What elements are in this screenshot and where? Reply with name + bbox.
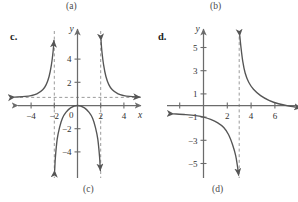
x-tick-label-d-2: 4 bbox=[249, 111, 254, 121]
y-tick-label-d-1: −3 bbox=[188, 136, 198, 146]
y-tick-label-d-3: 1 bbox=[193, 89, 198, 99]
figure-container: (a) (b) (c) (d) c. d. −4−224−4−2240xy 24… bbox=[0, 0, 298, 202]
x-tick-label-d-3: 6 bbox=[273, 111, 278, 121]
y-tick-label-d-2: −1 bbox=[188, 112, 198, 122]
curve-d-right-branch bbox=[240, 36, 298, 108]
graph-d: 246−5−3−1135y bbox=[0, 0, 298, 202]
y-tick-label-d-5: 5 bbox=[193, 43, 198, 53]
x-tick-label-d-1: 2 bbox=[225, 111, 230, 121]
y-tick-label-d-0: −5 bbox=[188, 159, 198, 169]
y-tick-label-d-4: 3 bbox=[193, 66, 198, 76]
y-axis-label-d: y bbox=[194, 24, 200, 34]
curve-d-left-branch bbox=[174, 114, 239, 175]
